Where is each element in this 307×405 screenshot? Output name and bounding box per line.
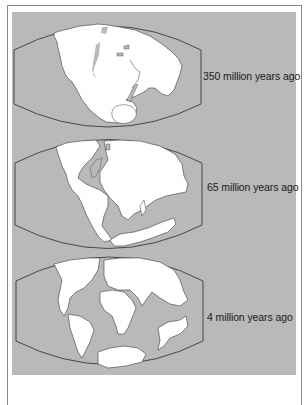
label-65-mya: 65 million years ago	[207, 181, 298, 193]
north-america	[54, 258, 100, 316]
africa	[100, 290, 136, 334]
map-4-mya	[16, 257, 203, 368]
lake	[117, 53, 123, 56]
antarctica	[98, 346, 146, 368]
map-350-mya	[14, 24, 201, 127]
lake	[106, 144, 110, 150]
map-65-mya	[15, 140, 202, 249]
gondwana-circle	[112, 105, 136, 124]
label-350-mya: 350 million years ago	[203, 70, 300, 82]
label-4-mya: 4 million years ago	[207, 311, 293, 323]
south-america	[68, 314, 94, 358]
antarctica-australia	[110, 218, 176, 246]
americas-landmass	[56, 140, 112, 242]
australia	[158, 316, 188, 350]
